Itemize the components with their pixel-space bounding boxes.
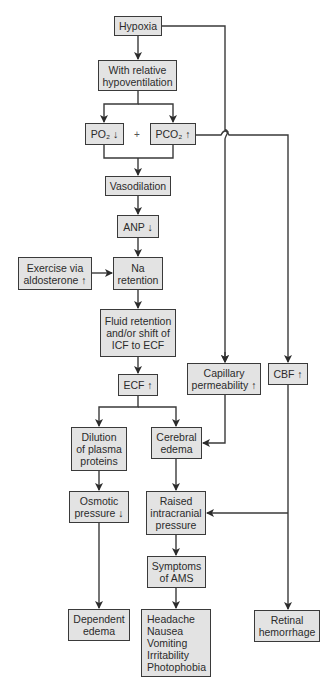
node-po2-decrease: PO₂ ↓ [85,123,124,145]
node-vasodilation: Vasodilation [105,176,171,196]
node-raised-icp: Raised intracranial pressure [146,491,206,535]
node-exercise-aldosterone: Exercise via aldosterone ↑ [18,257,92,290]
node-pco2-increase: PCO₂ ↑ [150,123,196,145]
node-ecf-increase: ECF ↑ [118,374,158,396]
node-cbf-increase: CBF ↑ [268,363,308,385]
flowchart: Hypoxia With relative hypoventilation PO… [0,0,332,690]
node-dependent-edema: Dependent edema [68,609,130,641]
node-dilution-plasma-proteins: Dilution of plasma proteins [71,427,127,471]
node-retinal-hemorrhage: Retinal hemorrhage [254,610,320,642]
node-symptoms-list: Headache Nausea Vomiting Irritability Ph… [141,609,211,677]
node-cerebral-edema: Cerebral edema [151,427,202,459]
node-hypoventilation: With relative hypoventilation [98,60,177,91]
node-na-retention: Na retention [113,257,163,290]
node-osmotic-pressure: Osmotic pressure ↓ [69,491,129,523]
node-symptoms-ams: Symptoms of AMS [147,556,206,588]
node-capillary-permeability: Capillary permeability ↑ [187,363,261,395]
plus-sign: + [134,129,140,140]
node-hypoxia: Hypoxia [114,16,162,36]
node-fluid-retention: Fluid retention and/or shift of ICF to E… [100,309,176,357]
node-anp-decrease: ANP ↓ [117,215,159,238]
